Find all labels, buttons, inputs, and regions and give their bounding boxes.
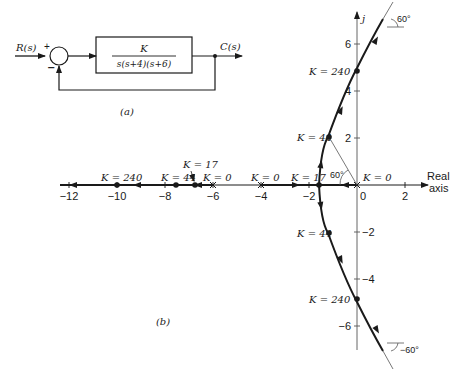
label-k44-upper: K = 44	[296, 132, 332, 143]
breakaway-angle-label: 60°	[330, 170, 344, 180]
y-tick-label: 4	[345, 85, 351, 97]
label-k44-real: K = 44	[160, 172, 196, 183]
y-tick-label: −4	[362, 273, 375, 285]
x-tick-label: −10	[108, 190, 127, 202]
angle-top-label: 60°	[397, 14, 411, 24]
label-k17-break: K = 17	[290, 172, 327, 183]
plus-sign: +	[44, 41, 50, 52]
label-k240-real: K = 240	[100, 172, 143, 183]
real-axis-label-1: Real	[427, 170, 450, 182]
angle-arc-bottom	[391, 343, 398, 351]
label-k240-lower: K = 240	[308, 294, 351, 305]
upper-branch	[319, 19, 383, 185]
label-k0-minus4: K = 0	[250, 172, 280, 183]
arrow-icon	[69, 182, 77, 188]
label-k44-lower: K = 44	[296, 228, 332, 239]
caption-a: (a)	[120, 106, 134, 117]
x-tick-label: 2	[402, 190, 408, 202]
output-label: C(s)	[220, 41, 241, 52]
label-k240-upper: K = 240	[308, 66, 351, 77]
x-tick-label: −12	[60, 190, 79, 202]
figure-canvas: R(s) + − K s(s+4)(s+6) C(s) (a) (b) j 60…	[0, 0, 457, 371]
x-tick-label: −8	[159, 190, 172, 202]
angle-bottom-label: −60°	[400, 345, 419, 355]
tf-numerator: K	[139, 43, 148, 54]
asymptote-top	[383, 2, 393, 19]
x-tick-label: 0	[360, 190, 366, 202]
label-k0-origin: K = 0	[362, 172, 392, 183]
x-tick-label: −6	[207, 190, 220, 202]
imag-axis-label: j	[360, 13, 365, 24]
root-locus-plot	[60, 2, 428, 369]
real-axis-label-2: axis	[429, 182, 449, 194]
y-tick-label: −2	[362, 226, 375, 238]
lower-branch	[319, 185, 383, 351]
caption-b: (b)	[156, 316, 170, 327]
input-label: R(s)	[15, 42, 37, 53]
label-k0-minus6: K = 0	[202, 172, 232, 183]
label-k17-real: K = 17	[182, 159, 219, 170]
tf-denominator: s(s+4)(s+6)	[117, 59, 172, 69]
x-tick-label: −4	[255, 190, 268, 202]
asymptote-bottom	[383, 351, 393, 369]
arrow-icon	[341, 182, 349, 188]
y-tick-label: 6	[345, 38, 351, 50]
minus-sign: −	[47, 62, 55, 73]
x-tick-label: −2	[303, 190, 316, 202]
y-tick-label: −6	[338, 320, 351, 332]
y-tick-label: 2	[345, 132, 351, 144]
